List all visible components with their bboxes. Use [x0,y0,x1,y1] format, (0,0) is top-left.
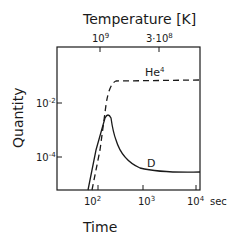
y-tick-label-1e-2: 10-2 [36,97,56,109]
series-d-line [88,115,200,190]
top-tick-label-1e9: 109 [92,32,109,44]
top-axis-title: Temperature [K] [82,11,196,27]
top-tick-label-3e8: 3·108 [146,32,173,44]
y-tick-label-1e-4: 10-4 [36,151,56,163]
x-axis-title: Time [82,219,117,235]
x-tick-label-1e3: 103 [138,195,155,207]
x-tick-label-1e2: 102 [84,195,101,207]
y-axis-title: Quantity [10,88,26,149]
series-d-label: D [147,157,155,170]
series-he4-line [92,80,200,190]
chart: Temperature [K] 109 3·108 Quantity 10-2 … [0,0,233,243]
x-unit-label: sec [210,196,227,207]
x-tick-label-1e4: 104 [187,195,205,207]
series-he4-label: He4 [145,66,165,79]
plot-frame [57,47,200,190]
